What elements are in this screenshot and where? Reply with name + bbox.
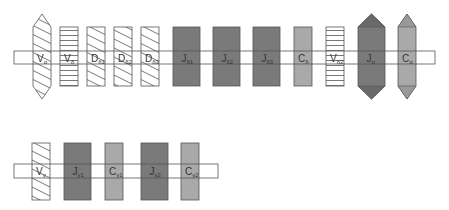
segment-J-delta3 (253, 27, 280, 86)
segment-J-alpha (358, 14, 385, 99)
segment-shape (253, 27, 280, 86)
segment-J-delta2 (213, 27, 240, 86)
segment-shape (213, 27, 240, 86)
gene-locus-diagram: VαVδDδ1Dδ2Dδ3Jδ1Jδ2Jδ3CδVδ2JαCαVγJγ1Cγ1J… (0, 0, 449, 210)
segment-shape (173, 27, 200, 86)
segment-J-delta1 (173, 27, 200, 86)
